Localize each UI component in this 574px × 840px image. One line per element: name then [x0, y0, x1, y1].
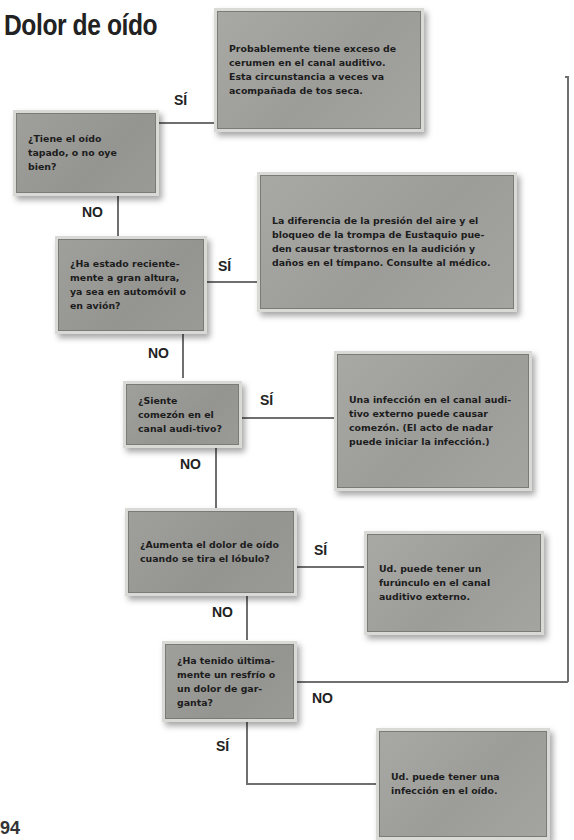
connector-q2-q3: [182, 334, 184, 378]
question-text: ¿Tiene el oído tapado, o no oye bien?: [16, 132, 156, 174]
question-box-altitude: ¿Ha estado reciente-mente a gran altura,…: [55, 236, 207, 334]
answer-text: Ud. puede tener una infección en el oído…: [379, 770, 547, 798]
connector-q4-a4: [297, 566, 364, 568]
yes-label-q5: SÍ: [216, 738, 229, 754]
yes-label-q4: SÍ: [314, 542, 327, 558]
answer-text: Probablemente tiene exceso de cerumen en…: [217, 42, 421, 98]
answer-box-canal-infection: Una infección en el canal audi-tivo exte…: [334, 351, 532, 491]
page-number: 94: [0, 818, 20, 839]
answer-text: Una infección en el canal audi-tivo exte…: [337, 393, 529, 449]
yes-label-q1: SÍ: [174, 92, 187, 108]
no-label-q2: NO: [148, 345, 169, 361]
answer-text: La diferencia de la presión del aire y e…: [260, 214, 514, 270]
no-label-q4: NO: [212, 604, 233, 620]
question-text: ¿Ha tenido última-mente un resfrío o un …: [165, 654, 294, 710]
question-box-earlobe-pain: ¿Aumenta el dolor de oído cuando se tira…: [125, 508, 297, 596]
connector-q3-a3: [242, 417, 334, 419]
connector-loop-top-tick: [565, 76, 569, 78]
answer-box-ear-infection: Ud. puede tener una infección en el oído…: [376, 728, 550, 840]
answer-box-earwax: Probablemente tiene exceso de cerumen en…: [214, 8, 424, 132]
connector-q5-yes: [246, 722, 248, 784]
yes-label-q2: SÍ: [218, 258, 231, 274]
page-title: Dolor de oído: [4, 8, 157, 42]
connector-q5-a5: [246, 783, 376, 785]
answer-text: Ud. puede tener un furúnculo en el canal…: [367, 562, 541, 604]
no-label-q1: NO: [82, 204, 103, 220]
yes-label-q3: SÍ: [260, 392, 273, 408]
connector-q5-no-loop: [297, 681, 568, 683]
connector-q1-q2: [117, 196, 119, 236]
question-box-ear-blocked: ¿Tiene el oído tapado, o no oye bien?: [13, 110, 159, 196]
connector-q3-q4: [215, 448, 217, 508]
question-text: ¿Siente comezón en el canal audi-tivo?: [126, 394, 239, 436]
connector-q2-a2: [207, 281, 257, 283]
no-label-q5: NO: [312, 690, 333, 706]
connector-q4-q5: [246, 596, 248, 640]
question-box-cold-sore-throat: ¿Ha tenido última-mente un resfrío o un …: [162, 641, 297, 722]
answer-box-air-pressure: La diferencia de la presión del aire y e…: [257, 172, 517, 312]
no-label-q3: NO: [180, 456, 201, 472]
question-box-itching: ¿Siente comezón en el canal audi-tivo?: [123, 381, 242, 448]
connector-loop-right: [567, 76, 569, 682]
question-text: ¿Aumenta el dolor de oído cuando se tira…: [128, 538, 294, 566]
answer-box-furuncle: Ud. puede tener un furúnculo en el canal…: [364, 531, 544, 635]
question-text: ¿Ha estado reciente-mente a gran altura,…: [58, 257, 204, 313]
